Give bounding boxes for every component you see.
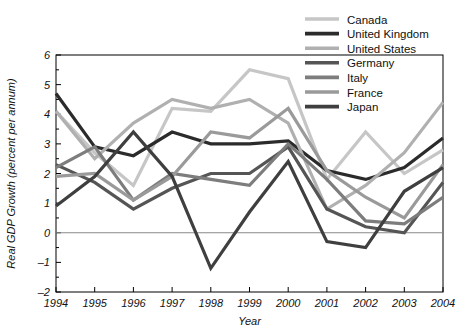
x-axis-ticks [56,287,443,292]
x-tick-label: 1998 [199,297,224,309]
series-lines [56,70,443,268]
x-axis-tick-labels: 1994199519961997199819992000200120022003… [44,297,455,309]
x-tick-label: 2002 [352,297,377,309]
legend-label-canada: Canada [347,14,388,26]
legend-label-japan: Japan [347,101,378,113]
legend-label-france: France [347,87,383,99]
y-axis-label: Real GDP Growth (percent per annum) [5,78,17,269]
y-tick-label: 2 [43,168,50,180]
y-tick-label: 6 [44,49,51,61]
x-tick-label: 2000 [275,297,301,309]
legend-label-united-kingdom: United Kingdom [347,28,429,40]
x-tick-label: 1999 [237,297,261,309]
x-axis-label: Year [238,315,262,327]
y-tick-label: 4 [44,108,50,120]
x-tick-label: 1997 [160,297,185,309]
y-axis-tick-labels: 6543210–1–2 [37,49,51,298]
y-axis-ticks [56,55,61,292]
y-tick-label: –1 [37,256,50,268]
legend-label-germany: Germany [347,57,395,69]
y-tick-label: 5 [44,79,51,91]
y-tick-label: 0 [44,227,51,239]
x-tick-label: 1994 [44,297,68,309]
x-tick-label: 1996 [121,297,146,309]
x-tick-label: 1995 [82,297,107,309]
legend-label-italy: Italy [347,72,368,84]
series-line-france [56,108,443,218]
x-tick-label: 2004 [430,297,455,309]
gdp-growth-line-chart: 6543210–1–2 1994199519961997199819992000… [0,0,470,334]
legend-label-united-states: United States [347,43,416,55]
chart-canvas: 6543210–1–2 1994199519961997199819992000… [0,0,470,334]
y-tick-label: 1 [44,197,50,209]
x-tick-label: 2001 [314,297,339,309]
x-tick-label: 2003 [391,297,417,309]
y-tick-label: 3 [44,138,51,150]
chart-legend: CanadaUnited KingdomUnited StatesGermany… [305,14,429,114]
